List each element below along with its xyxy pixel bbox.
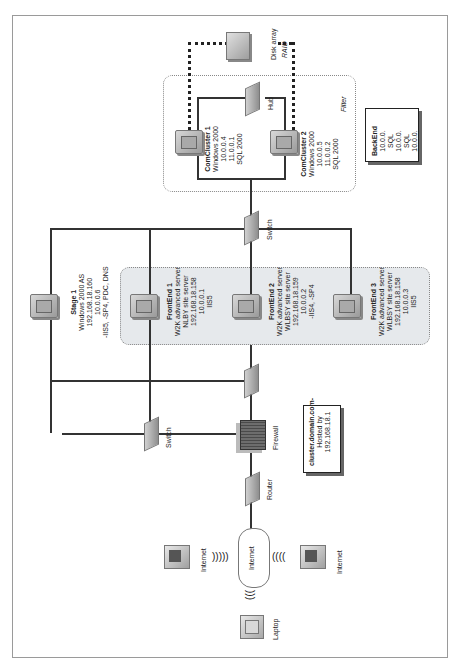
laptop-label: Laptop (272, 619, 280, 640)
raid-link-cc1 (188, 42, 191, 130)
filter-label: Filter (340, 96, 348, 112)
router-label: Router (266, 479, 274, 500)
backend-label: BackEnd 10.0.0. SQL 10.0.0. SQL 10.0.0. (371, 126, 419, 156)
bus-fe1-v (149, 228, 151, 433)
raid-link-cc2 (292, 42, 295, 130)
disk-array-label: Disk array (270, 28, 278, 60)
bus-fe3-v (350, 228, 352, 303)
frontend3-label: FrontEnd 3 W2K advanced server WLBSY sit… (370, 267, 418, 336)
wireless-waves-laptop-icon: ))) (245, 590, 255, 600)
cluster-link-top (197, 97, 247, 99)
laptop-icon (240, 615, 264, 639)
wireless-waves-right-icon: (((( (272, 552, 285, 562)
cluster-link-bottom (197, 178, 286, 180)
firewall-label: Firewall (272, 426, 280, 450)
frontend1-server-icon (130, 294, 158, 318)
raid-label: RAID (281, 41, 289, 58)
lower-bus (50, 380, 250, 382)
client-right-computer-icon (300, 545, 326, 569)
switch-top-label: Switch (266, 219, 274, 240)
frontend2-label: FrontEnd 2 W2K advanced server WLBSY sit… (268, 267, 316, 336)
internet-cloud-label: Internet (248, 546, 256, 570)
hub-label: Hub (267, 97, 275, 110)
switch-bus (50, 228, 352, 230)
switch-left-label: Switch (165, 427, 173, 448)
firewall-icon (240, 420, 266, 450)
comcluster2-server-icon (270, 130, 298, 154)
raid-link-top (188, 42, 228, 45)
client-left-computer-icon (164, 545, 190, 569)
frontend1-label: FrontEnd 1 W2K advanced server NLBY site… (166, 267, 214, 336)
cluster-info-label: cluster.domain.com- Hosted by 192.168.18… (308, 398, 332, 466)
stage1-server-icon (30, 294, 58, 318)
comcluster2-label: ComCluster 2 Windows 2000 10.0.0.5 11.0.… (300, 131, 340, 177)
frontend3-server-icon (333, 294, 361, 318)
frontend2-server-icon (232, 294, 260, 318)
comcluster1-label: ComCluster 1 Windows 2000 10.0.0.4 11.0.… (204, 126, 244, 172)
wireless-waves-left-icon: ))))) (212, 552, 229, 562)
disk-array-icon (226, 32, 250, 60)
client-left-label: Internet (200, 548, 208, 572)
stage1-label: Stage 1 Windows 2000 AS 192.168.18.160 1… (70, 266, 110, 338)
client-right-label: Internet (336, 550, 344, 574)
bus-left-v (50, 228, 52, 433)
comcluster1-server-icon (175, 130, 203, 154)
